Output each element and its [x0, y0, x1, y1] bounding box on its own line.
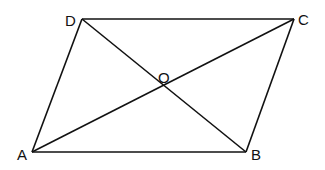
label-b: B	[251, 146, 261, 163]
label-c: C	[298, 11, 309, 28]
parallelogram-diagram: D C O A B	[0, 0, 325, 170]
label-a: A	[17, 146, 27, 163]
side-da	[32, 19, 82, 152]
label-d: D	[65, 12, 76, 29]
label-o: O	[158, 69, 170, 86]
